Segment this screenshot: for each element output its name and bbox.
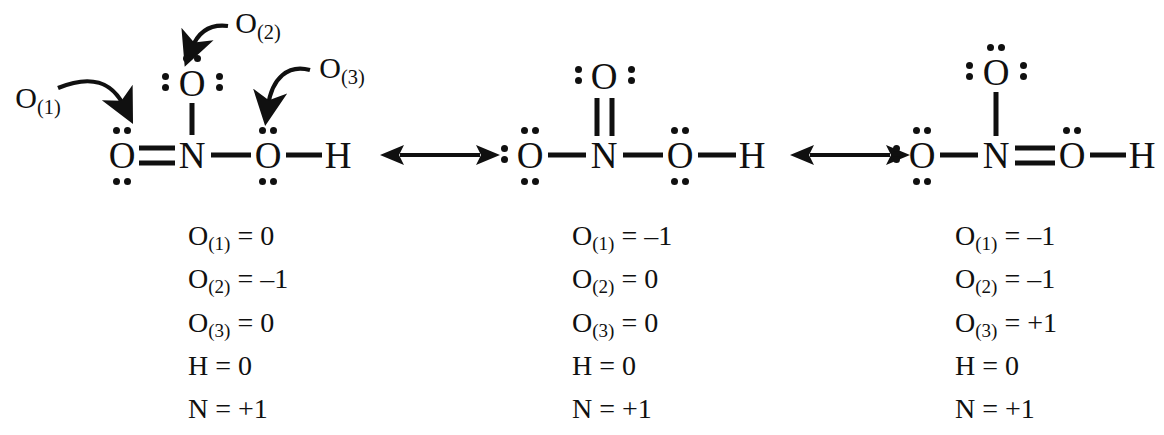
callout-arrow-o3 bbox=[268, 69, 310, 106]
charge-row: O(2) = –1 bbox=[955, 261, 1057, 304]
structure-2-left-oxygen: O bbox=[517, 137, 544, 174]
structure-3-top-oxygen: O bbox=[983, 54, 1010, 91]
structure-3-bond-n-topoxygen bbox=[994, 92, 999, 136]
structure-2-right-oxygen: O bbox=[667, 137, 694, 174]
callout-label-o3: O(3) bbox=[319, 53, 364, 87]
charge-row: O(3) = 0 bbox=[188, 305, 288, 348]
structure-1-left-oxygen: O bbox=[109, 137, 136, 174]
charge-row: O(2) = 0 bbox=[572, 261, 672, 304]
structure-2-bond-rightoxygen-h bbox=[698, 153, 736, 158]
structure-1-nitrogen: N bbox=[179, 137, 206, 174]
charge-row: N = +1 bbox=[955, 391, 1057, 434]
charge-row: O(1) = 0 bbox=[188, 218, 288, 261]
structure-1-bond-leftoxygen-n-lower bbox=[139, 161, 175, 166]
structure-3-bond-n-rightoxygen-lower bbox=[1015, 161, 1055, 166]
charge-row: O(2) = –1 bbox=[188, 261, 288, 304]
charge-list-structure-2: O(1) = –1 O(2) = 0 O(3) = 0 H = 0 N = +1 bbox=[572, 218, 672, 435]
callout-label-o1: O(1) bbox=[15, 83, 60, 117]
charge-row: H = 0 bbox=[955, 348, 1057, 391]
structure-1-bond-leftoxygen-n-upper bbox=[139, 146, 175, 151]
charge-row: N = +1 bbox=[572, 391, 672, 434]
structure-1-top-oxygen: O bbox=[179, 65, 206, 102]
resonance-diagram-canvas: O(1) O(2) O(3) O O N O H bbox=[0, 0, 1164, 435]
structure-3-hydrogen: H bbox=[1129, 137, 1156, 174]
structure-1-hydrogen: H bbox=[325, 137, 352, 174]
charge-row: N = +1 bbox=[188, 391, 288, 434]
charge-list-structure-3: O(1) = –1 O(2) = –1 O(3) = +1 H = 0 N = … bbox=[955, 218, 1057, 435]
structure-3-nitrogen: N bbox=[983, 137, 1010, 174]
structure-2-bond-n-topoxygen-right bbox=[610, 98, 615, 136]
resonance-arrow-2 bbox=[790, 135, 910, 175]
structure-2-bond-n-topoxygen-left bbox=[595, 98, 600, 136]
charge-list-structure-1: O(1) = 0 O(2) = –1 O(3) = 0 H = 0 N = +1 bbox=[188, 218, 288, 435]
callout-arrow-o2 bbox=[192, 26, 228, 48]
charge-row: H = 0 bbox=[572, 348, 672, 391]
charge-row: O(1) = –1 bbox=[572, 218, 672, 261]
callout-arrow-o1 bbox=[58, 81, 124, 106]
structure-2-bond-leftoxygen-n bbox=[548, 153, 586, 158]
structure-2-bond-n-rightoxygen bbox=[623, 153, 663, 158]
structure-2-hydrogen: H bbox=[739, 137, 766, 174]
structure-1-right-oxygen: O bbox=[255, 137, 282, 174]
structure-3-bond-leftoxygen-n bbox=[940, 153, 978, 158]
charge-row: O(3) = 0 bbox=[572, 305, 672, 348]
structure-3-left-oxygen: O bbox=[909, 137, 936, 174]
callout-label-o2: O(2) bbox=[235, 8, 280, 42]
structure-1-bond-rightoxygen-h bbox=[286, 153, 322, 158]
charge-row: O(1) = –1 bbox=[955, 218, 1057, 261]
structure-2-top-oxygen: O bbox=[591, 58, 618, 95]
structure-3-bond-n-rightoxygen-upper bbox=[1015, 146, 1055, 151]
structure-3-bond-rightoxygen-h bbox=[1090, 153, 1126, 158]
structure-2-nitrogen: N bbox=[591, 137, 618, 174]
structure-3-right-oxygen: O bbox=[1059, 137, 1086, 174]
charge-row: O(3) = +1 bbox=[955, 305, 1057, 348]
structure-1-bond-n-rightoxygen bbox=[211, 153, 251, 158]
resonance-arrow-1 bbox=[380, 135, 500, 175]
structure-1-bond-n-topoxygen bbox=[190, 103, 195, 135]
charge-row: H = 0 bbox=[188, 348, 288, 391]
